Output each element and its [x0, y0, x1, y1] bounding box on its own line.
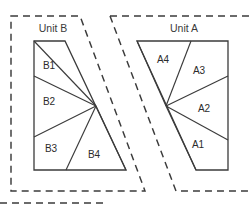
unit-b-sector-b2-label: B2	[43, 96, 56, 107]
unit-b-title: Unit B	[39, 22, 68, 34]
diagram-canvas: Unit B B1 B2 B3 B4 Unit A A4 A3 A2 A1	[0, 0, 251, 210]
unit-a-sector-a2-label: A2	[198, 103, 211, 114]
unit-b-sector-b3-label: B3	[45, 143, 58, 154]
unit-a-title: Unit A	[170, 22, 198, 34]
unit-a-sector-a4-label: A4	[157, 54, 170, 65]
unit-b-sector-b1-label: B1	[43, 60, 56, 71]
unit-a-sector-a3-label: A3	[193, 65, 206, 76]
unit-b-sector-b4-label: B4	[88, 149, 101, 160]
unit-a-outline	[137, 41, 228, 170]
unit-b-group[interactable]: Unit B B1 B2 B3 B4	[34, 22, 126, 170]
unit-a-group[interactable]: Unit A A4 A3 A2 A1	[137, 22, 228, 170]
zone-partition-diagram: Unit B B1 B2 B3 B4 Unit A A4 A3 A2 A1	[0, 0, 251, 210]
unit-a-sector-a1-label: A1	[192, 139, 205, 150]
